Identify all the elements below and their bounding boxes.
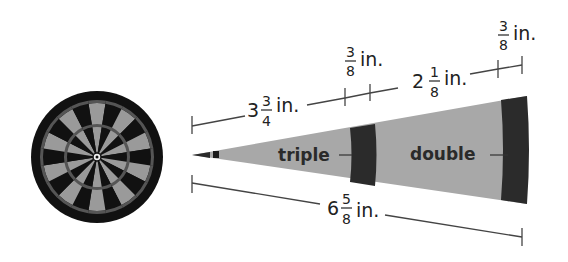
svg-text:5: 5 xyxy=(342,191,351,207)
svg-text:2: 2 xyxy=(412,70,424,92)
inner-length-label: 3 3 4 in. xyxy=(247,93,299,129)
svg-text:3: 3 xyxy=(346,44,355,60)
svg-text:in.: in. xyxy=(276,94,299,116)
svg-text:in.: in. xyxy=(444,67,467,89)
triple-width-label: 3 8 in. xyxy=(345,44,383,79)
svg-text:3: 3 xyxy=(247,99,259,121)
middle-length-label: 2 1 8 in. xyxy=(412,64,467,100)
double-width-label: 3 8 in. xyxy=(498,18,536,53)
svg-text:1: 1 xyxy=(430,64,439,80)
wedge-diagram xyxy=(192,96,529,204)
svg-text:8: 8 xyxy=(342,211,351,227)
svg-text:8: 8 xyxy=(430,84,439,100)
svg-text:in.: in. xyxy=(360,48,383,70)
svg-text:in.: in. xyxy=(356,199,379,221)
svg-text:8: 8 xyxy=(499,37,508,53)
svg-text:8: 8 xyxy=(346,63,355,79)
svg-text:4: 4 xyxy=(262,113,271,129)
svg-text:3: 3 xyxy=(262,93,271,109)
double-label: double xyxy=(410,144,475,164)
svg-text:in.: in. xyxy=(513,22,536,44)
dartboard-diagram: triple double 3 3 4 in. 3 8 in. 2 1 8 in… xyxy=(0,0,568,262)
dartboard-icon xyxy=(31,91,163,223)
svg-text:6: 6 xyxy=(327,197,339,219)
svg-text:3: 3 xyxy=(499,18,508,34)
triple-label: triple xyxy=(278,145,330,165)
total-length-label: 6 5 8 in. xyxy=(327,191,379,227)
